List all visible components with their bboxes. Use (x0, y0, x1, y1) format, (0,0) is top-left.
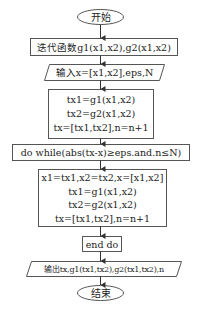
loop-line-4: tx=[tx1,tx2],n=n+1 (55, 212, 150, 226)
loop-line-1: x1=tx1,x2=tx2,x=[x1,x2] (42, 171, 164, 185)
init-line-1: tx1=g1(x1,x2) (67, 93, 136, 107)
iter-funcs-label: 迭代函数g1(x1,x2),g2(x1,x2) (31, 39, 177, 55)
init-line-2: tx2=g2(x1,x2) (67, 107, 136, 121)
output-label: 输出tx,g1(tx1,tx2),g2(tx1,tx2),n (30, 262, 178, 276)
end-label: 结束 (78, 286, 124, 300)
init-block-text: tx1=g1(x1,x2) tx2=g2(x1,x2) tx=[tx1,tx2]… (49, 91, 153, 137)
end-do-label: end do (83, 237, 121, 251)
start-label: 开始 (78, 10, 124, 24)
loop-body-text: x1=tx1,x2=tx2,x=[x1,x2] tx1=g1(x1,x2) tx… (39, 171, 166, 225)
init-line-3: tx=[tx1,tx2],n=n+1 (53, 121, 148, 135)
input-label: 输入x=[x1,x2],eps,N (48, 65, 161, 80)
loop-line-2: tx1=g1(x1,x2) (68, 185, 137, 199)
loop-line-3: tx2=g2(x1,x2) (68, 198, 137, 212)
loop-condition-label: do while(abs(tx-x)≥eps.and.n≤N) (13, 145, 189, 160)
